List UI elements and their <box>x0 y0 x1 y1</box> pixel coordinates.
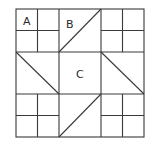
diagonal-middle-left <box>16 52 59 94</box>
four-patch-bottom-left <box>16 94 59 137</box>
diagonal-middle-right <box>101 52 144 94</box>
quilt-block-diagram: A B C <box>0 0 150 147</box>
label-b: B <box>66 18 74 31</box>
four-patch-bottom-right <box>101 94 144 137</box>
label-c: C <box>76 68 84 81</box>
diagonal-bottom-middle <box>59 94 101 137</box>
four-patch-top-right <box>101 9 144 52</box>
label-a: A <box>23 15 31 28</box>
